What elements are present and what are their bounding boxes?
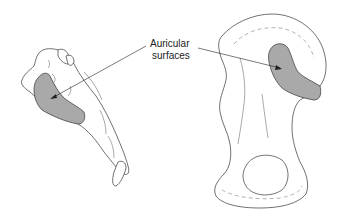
ilium-foramen [243, 155, 288, 195]
auricular-surfaces-label: Auricular surfaces [150, 38, 190, 62]
sacrum-drawing [21, 49, 128, 186]
label-line-2: surfaces [150, 50, 190, 62]
label-line-1: Auricular [150, 38, 190, 50]
anatomy-figure [0, 0, 342, 224]
ilium-drawing [215, 14, 326, 208]
